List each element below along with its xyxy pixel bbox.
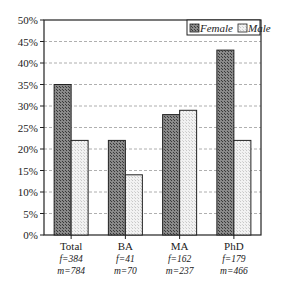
legend-label-male: Male: [247, 22, 271, 34]
y-tick-label: 40%: [18, 57, 38, 69]
y-tick-label: 25%: [18, 122, 38, 134]
category-note-male: m=784: [57, 266, 85, 276]
bar-male-ma: [180, 110, 197, 235]
legend-swatch-male: [238, 24, 247, 32]
bars: [54, 50, 251, 235]
x-axis: Totalf=384m=784BAf=41m=70MAf=162m=237PhD…: [57, 235, 248, 276]
bar-female-ma: [163, 115, 180, 235]
bar-female-total: [54, 85, 71, 236]
y-tick-label: 30%: [18, 100, 38, 112]
legend: FemaleMale: [187, 20, 271, 35]
x-tick-label: Total: [60, 240, 82, 252]
bar-male-total: [71, 140, 88, 235]
category-note-female: f=41: [116, 254, 135, 264]
y-tick-label: 35%: [18, 79, 38, 91]
category-note-female: f=384: [59, 254, 83, 264]
category-note-female: f=162: [168, 254, 192, 264]
y-tick-label: 0%: [23, 229, 38, 241]
y-tick-label: 5%: [23, 208, 38, 220]
bar-female-ba: [108, 140, 125, 235]
category-note-female: f=179: [222, 254, 246, 264]
category-note-male: m=466: [220, 266, 248, 276]
category-note-male: m=70: [114, 266, 137, 276]
bar-male-ba: [125, 175, 142, 235]
legend-label-female: Female: [199, 22, 233, 34]
y-tick-label: 15%: [18, 165, 38, 177]
category-note-male: m=237: [166, 266, 195, 276]
bar-chart: 0%5%10%15%20%25%30%35%40%45%50% Totalf=3…: [0, 0, 291, 288]
y-tick-label: 10%: [18, 186, 38, 198]
y-tick-label: 45%: [18, 36, 38, 48]
legend-swatch-female: [190, 24, 199, 32]
bar-female-phd: [217, 50, 234, 235]
x-tick-label: PhD: [224, 240, 244, 252]
bar-male-phd: [234, 140, 251, 235]
y-tick-label: 50%: [18, 14, 38, 26]
x-tick-label: BA: [118, 240, 133, 252]
x-tick-label: MA: [171, 240, 189, 252]
y-tick-label: 20%: [18, 143, 38, 155]
